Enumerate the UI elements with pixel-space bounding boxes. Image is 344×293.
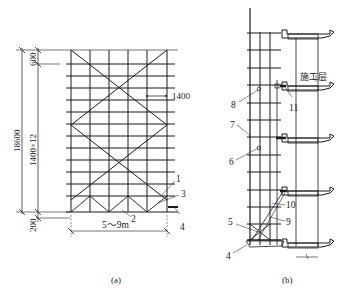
callout-b-9: 9	[286, 217, 291, 227]
caption-b: (b)	[282, 275, 293, 285]
callout-b-7: 7	[230, 120, 235, 130]
callout-a-3: 3	[181, 189, 186, 199]
callout-leaders-b	[233, 86, 292, 253]
callout-a-2: 2	[131, 214, 136, 224]
scaffold-side-view	[246, 8, 285, 247]
dim-1400x12: 1400×12	[28, 134, 38, 166]
callout-a-1: 1	[176, 174, 181, 184]
figure-a: 600 18600 1400×12 200	[12, 47, 191, 285]
scaffold-grid-a	[66, 50, 178, 212]
dim-width: 5～9m	[102, 220, 130, 230]
dim-200: 200	[28, 218, 38, 232]
callout-a-4: 4	[180, 222, 185, 232]
callout-b-4: 4	[226, 251, 231, 261]
figure-b: 施工层 8 11 7 6 10 9 5 4 (b)	[226, 8, 334, 285]
callout-b-6: 6	[229, 157, 234, 167]
building-slabs	[276, 30, 334, 259]
dim-1400: 1400	[172, 91, 191, 101]
dim-1400-arrow	[146, 95, 167, 97]
dim-18600: 18600	[12, 129, 22, 152]
callout-b-8: 8	[231, 100, 236, 110]
callout-b-11: 11	[289, 103, 298, 113]
callout-b-5: 5	[228, 217, 233, 227]
callout-b-10: 10	[286, 200, 296, 210]
dim-600: 600	[28, 52, 38, 66]
caption-a: (a)	[111, 275, 121, 285]
construction-floor-label: 施工层	[300, 71, 327, 82]
